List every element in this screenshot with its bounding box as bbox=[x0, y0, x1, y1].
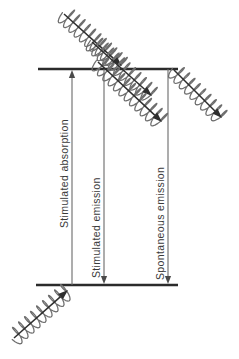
diagram-canvas: Stimulated absorptionStimulated emission… bbox=[0, 0, 239, 359]
incident-photon-absorption-arrow-shaft bbox=[14, 297, 61, 338]
photon-waves-group bbox=[12, 10, 227, 344]
incident-photon-absorption bbox=[12, 285, 70, 344]
energy-level-diagram: Stimulated absorptionStimulated emission… bbox=[0, 0, 239, 359]
stimulated-emission-label: Stimulated emission bbox=[90, 177, 102, 278]
stimulated-photon-pair-a-arrow-shaft bbox=[92, 42, 145, 89]
stimulated-absorption-label: Stimulated absorption bbox=[58, 119, 70, 228]
spontaneous-emission-label: Spontaneous emission bbox=[154, 167, 166, 280]
incident-photon-stimulating-arrow-shaft bbox=[64, 14, 115, 59]
transition-labels-group: Stimulated absorptionStimulated emission… bbox=[58, 119, 166, 280]
spontaneous-photon bbox=[169, 68, 228, 121]
spontaneous-photon-arrow-shaft bbox=[174, 70, 215, 111]
incident-photon-stimulating bbox=[58, 10, 127, 70]
stimulated-absorption-arrowhead bbox=[69, 70, 75, 78]
